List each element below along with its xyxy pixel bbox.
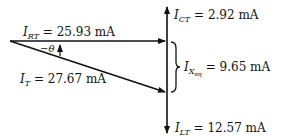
i-t-label: IT = 27.67 mA	[20, 73, 106, 88]
i-rt-label: IRT = 25.93 mA	[23, 26, 115, 41]
brace-icon	[171, 42, 180, 92]
i-xeq-label: IXeq = 9.65 mA	[184, 61, 270, 77]
i-lt-label: ILT = 12.57 mA	[175, 122, 266, 137]
i-ct-label: ICT = 2.92 mA	[174, 9, 258, 24]
angle-theta-label: −θ	[40, 44, 54, 54]
